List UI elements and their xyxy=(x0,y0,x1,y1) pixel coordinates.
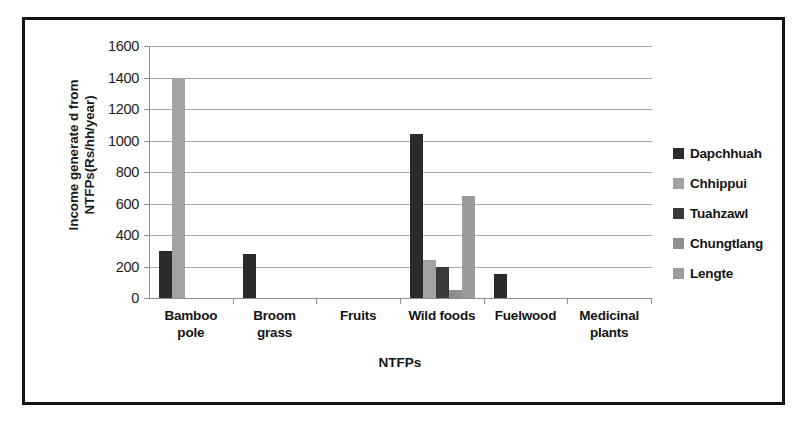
y-axis-tick-mark xyxy=(144,172,149,173)
x-axis-title: NTFPs xyxy=(149,355,651,370)
bar-group xyxy=(150,46,234,298)
y-axis-tick-label: 200 xyxy=(93,259,139,275)
bar-group xyxy=(401,46,485,298)
bar-chungtlang-wild-foods xyxy=(449,290,462,298)
bar-dapchhuah-fuelwood xyxy=(494,274,507,298)
y-axis-tick-mark xyxy=(144,298,149,299)
bar-lengte-wild-foods xyxy=(462,196,475,298)
x-axis-category-label-line: Broom xyxy=(253,308,296,323)
legend-item-chungtlang[interactable]: Chungtlang xyxy=(673,228,798,258)
y-axis-tick-mark xyxy=(144,46,149,47)
y-axis-tick-mark xyxy=(144,235,149,236)
x-axis-tick-mark xyxy=(484,298,485,304)
x-axis-category-label-line: pole xyxy=(177,325,204,340)
x-axis-tick-mark xyxy=(400,298,401,304)
x-axis-category-label-line: Medicinal xyxy=(579,308,639,323)
y-axis-tick-label: 600 xyxy=(93,196,139,212)
bar-group xyxy=(568,46,652,298)
x-axis-category-label-line: Fruits xyxy=(340,308,376,323)
bar-chhippui-bamboo-pole xyxy=(172,78,185,299)
legend-item-dapchhuah[interactable]: Dapchhuah xyxy=(673,138,798,168)
bar-group xyxy=(234,46,318,298)
legend-label: Lengte xyxy=(690,266,733,281)
x-axis-title-text: NTFPs xyxy=(379,355,422,370)
x-axis-category-label-line: Wild foods xyxy=(408,308,475,323)
bar-dapchhuah-broom-grass xyxy=(243,254,256,298)
bar-dapchhuah-bamboo-pole xyxy=(159,251,172,298)
x-axis-tick-mark xyxy=(316,298,317,304)
legend-swatch-icon xyxy=(673,238,684,249)
bar-chhippui-wild-foods xyxy=(423,260,436,298)
y-axis-tick-label: 800 xyxy=(93,164,139,180)
bar-dapchhuah-wild-foods xyxy=(410,134,423,298)
y-axis-tick-mark xyxy=(144,109,149,110)
legend-swatch-icon xyxy=(673,268,684,279)
legend-label: Dapchhuah xyxy=(690,146,762,161)
x-axis-tick-mark xyxy=(567,298,568,304)
bar-group xyxy=(317,46,401,298)
x-axis-category-label-line: Bamboo xyxy=(164,308,217,323)
y-axis-tick-mark xyxy=(144,141,149,142)
legend-item-tuahzawl[interactable]: Tuahzawl xyxy=(673,198,798,228)
x-axis-category-label: Medicinalplants xyxy=(555,308,663,342)
bar-group xyxy=(485,46,569,298)
legend-item-lengte[interactable]: Lengte xyxy=(673,258,798,288)
y-axis-tick-label: 1600 xyxy=(93,38,139,54)
y-axis-tick-label: 1000 xyxy=(93,133,139,149)
legend: DapchhuahChhippuiTuahzawlChungtlangLengt… xyxy=(673,138,798,288)
legend-label: Tuahzawl xyxy=(690,206,748,221)
legend-item-chhippui[interactable]: Chhippui xyxy=(673,168,798,198)
legend-swatch-icon xyxy=(673,178,684,189)
legend-swatch-icon xyxy=(673,208,684,219)
y-axis-tick-label: 1200 xyxy=(93,101,139,117)
y-axis-tick-mark xyxy=(144,267,149,268)
x-axis-tick-mark xyxy=(651,298,652,304)
y-axis-tick-mark xyxy=(144,78,149,79)
x-axis-category-label-line: plants xyxy=(590,325,629,340)
y-axis-tick-label: 400 xyxy=(93,227,139,243)
figure-frame: Income generate d fromNTFPs(Rs/hh/year) … xyxy=(22,17,785,405)
plot-wrap: 16001400120010008006004002000 Bamboopole… xyxy=(149,46,651,298)
legend-swatch-icon xyxy=(673,148,684,159)
x-axis-tick-mark xyxy=(233,298,234,304)
legend-label: Chhippui xyxy=(690,176,747,191)
y-axis-tick-label: 1400 xyxy=(93,70,139,86)
plot-area xyxy=(149,46,652,299)
y-axis-tick-mark xyxy=(144,204,149,205)
x-axis-category-label-line: grass xyxy=(257,325,292,340)
y-axis-tick-label: 0 xyxy=(93,290,139,306)
legend-label: Chungtlang xyxy=(690,236,763,251)
x-axis-category-label-line: Fuelwood xyxy=(495,308,556,323)
bar-tuahzawl-wild-foods xyxy=(436,267,449,299)
y-axis-title-line: Income generate d from xyxy=(66,80,81,231)
